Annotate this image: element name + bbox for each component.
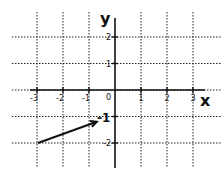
vector-shaft bbox=[38, 122, 97, 143]
coordinate-plane: -3-2-112312-2 x y 0 -1 bbox=[0, 0, 224, 174]
y-tick-label: 2 bbox=[106, 33, 111, 42]
x-tick-label: -1 bbox=[82, 94, 90, 103]
x-tick-label: 3 bbox=[190, 94, 195, 103]
vector-arrow bbox=[38, 121, 97, 143]
y-tick-label: 1 bbox=[106, 60, 111, 69]
x-tick-label: 2 bbox=[164, 94, 169, 103]
origin-label: 0 bbox=[106, 93, 111, 102]
x-tick-label: -2 bbox=[56, 94, 64, 103]
y-axis-label: y bbox=[100, 9, 111, 28]
y-tick-label: -2 bbox=[103, 139, 111, 148]
x-axis-label: x bbox=[200, 91, 211, 110]
x-tick-label: -3 bbox=[30, 94, 38, 103]
highlight-label: -1 bbox=[97, 111, 110, 125]
x-tick-label: 1 bbox=[138, 94, 143, 103]
